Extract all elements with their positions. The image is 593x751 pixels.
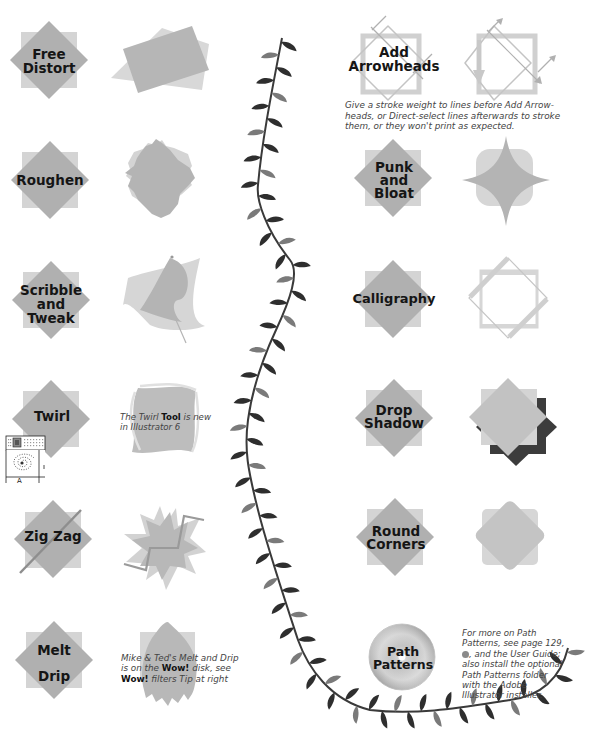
vine-leaf xyxy=(305,673,316,691)
note-line: is on the Wow! disk, see xyxy=(121,663,251,673)
free-distort-label: Free Distort xyxy=(12,47,86,75)
round-corners-result-graphic xyxy=(473,499,547,573)
note-line: The Twirl Tool is new xyxy=(120,412,230,422)
note-bold: Wow! xyxy=(121,674,149,684)
zig-zag-label: Zig Zag xyxy=(14,529,92,543)
calligraphy-result-graphic xyxy=(469,258,547,338)
note-bold: Tool xyxy=(161,412,180,422)
twirl-tool-palette xyxy=(6,436,45,483)
vine-leaf xyxy=(278,236,296,246)
label-line: Melt xyxy=(16,637,92,663)
cd-icon xyxy=(462,651,469,658)
note-line: Illustrator installer. xyxy=(462,690,587,700)
vine-leaf xyxy=(254,384,270,402)
roughen-label: Roughen xyxy=(10,173,90,187)
punk-bloat-label: Punk and Bloat xyxy=(356,161,432,200)
vine-leaf xyxy=(275,253,286,271)
vine-leaf xyxy=(506,700,524,717)
vine-leaf xyxy=(259,320,277,332)
label-line: and xyxy=(12,297,90,311)
punk-bloat-result-graphic xyxy=(462,136,550,226)
label-line: Shadow xyxy=(356,417,432,430)
vine-leaf xyxy=(455,707,473,724)
add-arrowheads-result-graphic xyxy=(465,18,556,100)
note-line: heads, or Direct-select lines afterwards… xyxy=(345,111,593,122)
vine-leaf xyxy=(415,693,431,711)
note-line: Give a stroke weight to lines before Add… xyxy=(345,100,593,111)
vine-leaf xyxy=(259,509,278,523)
arrowheads-note: Give a stroke weight to lines before Add… xyxy=(345,100,593,132)
melt-note: Mike & Ted's Melt and Drip is on the Wow… xyxy=(121,653,251,684)
vine-leaf xyxy=(350,706,362,724)
vine-leaf xyxy=(240,499,256,517)
vine-leaf xyxy=(324,675,342,684)
twirl-label: Twirl xyxy=(14,409,90,423)
vine-leaf xyxy=(253,484,272,498)
label-line: Drip xyxy=(16,663,92,689)
note-line: Mike & Ted's Melt and Drip xyxy=(121,653,251,663)
calligraphy-label: Calligraphy xyxy=(352,292,436,306)
scribble-tweak-label: Scribble and Tweak xyxy=(12,283,90,326)
vine-leaf xyxy=(260,48,279,63)
vine-leaf xyxy=(229,447,246,464)
vine-leaf xyxy=(298,633,317,646)
vine-leaf xyxy=(266,534,285,548)
vine-leaf xyxy=(247,125,265,140)
vine-leaf xyxy=(276,63,293,81)
free-distort-result-graphic xyxy=(111,26,209,93)
decorative-vine xyxy=(246,38,568,712)
vine-leaf xyxy=(240,369,259,382)
note-line: For more on Path xyxy=(462,628,587,638)
note-text: , and the User Guide; xyxy=(469,649,561,659)
path-patterns-label: Path Patterns xyxy=(366,645,440,671)
label-line: Twirl xyxy=(14,409,90,423)
note-text: filters Tip at right xyxy=(149,674,228,684)
zig-zag-result-graphic xyxy=(124,506,206,590)
vine-leaf xyxy=(309,656,327,666)
label-line: Free xyxy=(12,47,86,61)
vine-leaf xyxy=(259,165,276,183)
vine-leaf xyxy=(271,88,288,106)
vine-leaf xyxy=(266,214,284,226)
note-line: Wow! filters Tip at right xyxy=(121,674,251,684)
drop-shadow-label: Drop Shadow xyxy=(356,404,432,430)
vine-leaf xyxy=(249,408,266,426)
vine-leaf xyxy=(248,459,266,474)
vine-leaf xyxy=(389,694,406,712)
roughen-result-graphic xyxy=(125,139,195,218)
vine-leaf xyxy=(327,693,335,710)
add-arrowheads-label: Add Arrowheads xyxy=(348,45,440,73)
vine-leaf xyxy=(262,359,277,377)
vine-leaf xyxy=(279,624,294,642)
drop-shadow-result-graphic xyxy=(469,378,557,466)
vine-leaf xyxy=(281,37,298,55)
note-line: with the Adobe xyxy=(462,680,587,690)
vine-leaf xyxy=(249,344,268,356)
vine-leaf xyxy=(429,710,446,727)
note-bold: Wow! xyxy=(162,663,190,673)
vine-leaf xyxy=(229,420,247,436)
vine-leaf xyxy=(247,524,263,542)
vine-leaf xyxy=(263,139,280,157)
label-line: Bloat xyxy=(356,187,432,200)
round-corners-label: Round Corners xyxy=(357,525,435,551)
vine-leaf xyxy=(262,574,277,592)
note-text: is on the xyxy=(121,663,162,673)
vine-leaf xyxy=(289,649,303,668)
vine-leaf xyxy=(233,394,252,409)
vine-leaf xyxy=(402,712,419,730)
twirl-note: The Twirl Tool is new in Illustrator 6 xyxy=(120,412,230,433)
scribble-tweak-result-graphic xyxy=(123,255,205,343)
vine-leaf xyxy=(274,559,293,573)
vine-leaf xyxy=(272,336,286,355)
melt-drip-label: Melt Drip xyxy=(16,637,92,689)
vine-leaf xyxy=(282,312,296,331)
note-line: them, or they won't print as expected. xyxy=(345,121,593,132)
note-line: in Illustrator 6 xyxy=(120,422,230,432)
label-line: Scribble xyxy=(12,283,90,297)
vine-leaf xyxy=(255,74,274,89)
label-line: Add xyxy=(348,45,440,59)
vine-leaf xyxy=(267,114,284,132)
label-line: Tweak xyxy=(12,311,90,325)
note-line: also install the optional xyxy=(462,659,587,669)
